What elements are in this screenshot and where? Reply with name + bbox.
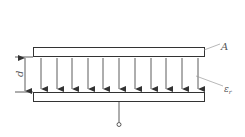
permittivity-leader-line bbox=[196, 76, 223, 86]
distance-label: d bbox=[14, 71, 25, 77]
bottom-plate bbox=[34, 93, 205, 102]
top-plate bbox=[34, 48, 205, 57]
permittivity-label: εr bbox=[224, 84, 233, 95]
electric-field-arrows bbox=[41, 58, 198, 89]
area-leader-line bbox=[204, 44, 220, 50]
bottom-terminal bbox=[117, 102, 121, 127]
area-label: A bbox=[220, 41, 228, 52]
permittivity-subscript: r bbox=[229, 88, 233, 95]
capacitor-diagram: d A εr bbox=[0, 0, 245, 137]
